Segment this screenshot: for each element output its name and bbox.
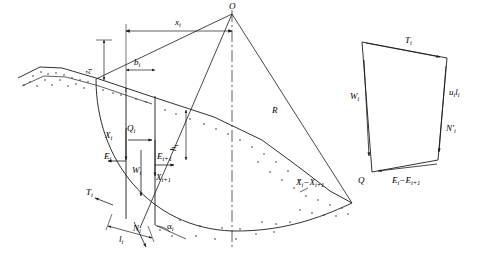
polygon-Ti-arrow [366,43,440,57]
force-polygon-outline [362,42,447,172]
XiXi1-leader [300,188,308,192]
Ti-force-arrow [95,198,113,205]
radius-left-line [96,14,232,79]
label-polygon-Q: Q [358,176,365,185]
label-Xi-minus-Xi1: Xi−Xi+1 [296,178,324,187]
label-alpha-i: αi [167,222,174,231]
label-Ei: Ei [104,152,111,161]
label-xi: xi [175,18,181,27]
label-Xi1: Xi+1 [156,173,171,182]
label-li: li [119,235,123,244]
label-Ti: Ti [86,188,93,197]
li-dimension-line [108,226,152,238]
li-extension-left [106,214,112,230]
label-polygon-Wi: Wi [350,92,359,101]
radius-right-line [232,14,352,203]
polygon-Wi-arrow [364,60,369,156]
slope-geometry [18,10,352,250]
slip-surface-arc [96,79,352,231]
figure-container: O xi R bi zi hi Qi Wi Xi Ei Xi+1 Ei+1 Ti… [0,0,481,275]
label-bi: bi [134,58,140,67]
label-R: R [272,106,278,115]
force-polygon [362,42,447,172]
label-hi: hi [169,145,178,151]
label-polygon-uili: uili [449,88,460,97]
polygon-Nprime-arrow [439,66,446,152]
label-Ni: Ni [133,224,141,233]
label-Ei1: Ei+1 [157,152,172,161]
li-extension-right [148,226,154,242]
label-polygon-Nprime: N′i [446,124,456,133]
polygon-E-diff-arrow [378,164,437,171]
label-center-O: O [229,2,236,11]
label-Qi: Qi [127,124,135,133]
label-zi: zi [83,69,92,74]
label-Wi: Wi [132,166,141,175]
label-polygon-E-diff: Ei−Ei+1 [392,176,420,185]
label-polygon-Ti: Ti [405,36,412,45]
label-Xi: Xi [105,131,112,140]
